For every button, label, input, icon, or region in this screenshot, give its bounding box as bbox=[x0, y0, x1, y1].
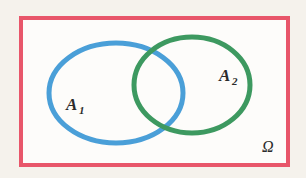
set-a2-label-subscript: 2 bbox=[231, 75, 238, 87]
set-a1-label-subscript: 1 bbox=[79, 104, 85, 116]
venn-diagram-canvas: A 1 A 2 Ω bbox=[0, 0, 306, 178]
sample-space-interior bbox=[23, 20, 286, 163]
set-a2-label-main: A bbox=[218, 66, 230, 85]
sample-space-label: Ω bbox=[262, 138, 274, 155]
venn-diagram-figure: A 1 A 2 Ω bbox=[0, 0, 306, 178]
set-a1-label-main: A bbox=[65, 95, 77, 114]
